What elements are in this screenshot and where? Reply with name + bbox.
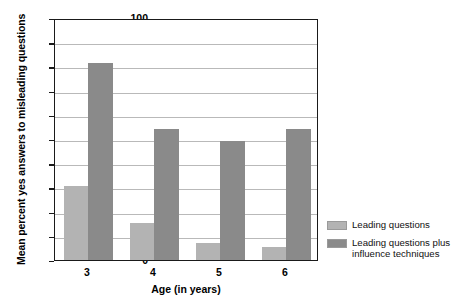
bars-layer xyxy=(55,20,317,260)
bar xyxy=(64,186,89,260)
y-axis-title: Mean percent yes answers to misleading q… xyxy=(15,15,27,265)
bar xyxy=(196,243,221,260)
x-tick-label: 5 xyxy=(199,266,239,278)
legend-swatch xyxy=(327,239,347,248)
bar xyxy=(88,63,113,260)
x-tick-label: 3 xyxy=(67,266,107,278)
x-tick-label: 6 xyxy=(265,266,305,278)
bar xyxy=(286,129,311,260)
x-axis-title: Age (in years) xyxy=(54,283,318,295)
legend-item: Leading questions plus influence techniq… xyxy=(327,237,467,260)
legend-item: Leading questions xyxy=(327,219,467,231)
bar-chart: Mean percent yes answers to misleading q… xyxy=(0,0,469,303)
x-tick-label: 4 xyxy=(133,266,173,278)
legend-swatch xyxy=(327,221,347,230)
bar xyxy=(130,223,155,261)
bar xyxy=(220,141,245,260)
y-tick-mark xyxy=(49,261,54,262)
legend-label: Leading questions plus influence techniq… xyxy=(352,237,464,260)
legend-label: Leading questions xyxy=(352,219,430,231)
bar xyxy=(262,247,287,260)
bar xyxy=(154,129,179,260)
plot-area xyxy=(54,19,318,261)
chart-legend: Leading questionsLeading questions plus … xyxy=(327,219,467,266)
